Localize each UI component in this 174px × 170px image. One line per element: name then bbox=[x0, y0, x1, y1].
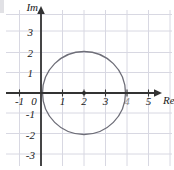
im-tick-label-3: 3 bbox=[27, 26, 34, 38]
im-tick-label-2: 2 bbox=[28, 47, 34, 59]
grid-vertical-lines bbox=[20, 10, 171, 166]
re-axis-arrowhead bbox=[154, 89, 162, 97]
re-tick-label-neg1: -1 bbox=[15, 95, 24, 107]
im-tick-label-neg3: -3 bbox=[26, 149, 36, 161]
im-tick-label-neg2: -2 bbox=[26, 129, 36, 141]
re-axis-tick-labels: -1 0 1 2 3 4 5 bbox=[15, 95, 152, 107]
re-tick-label-0: 0 bbox=[31, 95, 37, 107]
complex-plane-figure: -1 0 1 2 3 4 5 3 2 1 -1 -2 -3 Im Re bbox=[0, 0, 174, 170]
re-tick-label-5: 5 bbox=[146, 95, 152, 107]
re-axis-label: Re bbox=[162, 94, 174, 106]
im-axis-arrowhead bbox=[37, 6, 45, 14]
im-axis-label: Im bbox=[25, 1, 38, 13]
re-tick-label-1: 1 bbox=[60, 95, 66, 107]
im-tick-label-1: 1 bbox=[28, 67, 34, 79]
im-tick-label-neg1: -1 bbox=[26, 108, 35, 120]
re-tick-label-3: 3 bbox=[102, 95, 109, 107]
re-tick-label-4: 4 bbox=[124, 95, 130, 107]
re-tick-label-2: 2 bbox=[81, 95, 87, 107]
complex-plane-svg: -1 0 1 2 3 4 5 3 2 1 -1 -2 -3 Im Re bbox=[0, 0, 174, 170]
